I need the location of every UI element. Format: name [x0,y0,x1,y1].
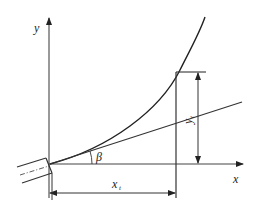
svg-text:x: x [111,177,118,191]
angle-arc [90,151,92,164]
nozzle-icon [17,158,52,183]
svg-text:t: t [188,115,196,118]
svg-text:y: y [181,118,195,125]
svg-text:t: t [119,184,122,192]
trajectory-curve [50,17,205,164]
trajectory-diagram: y x β x t y t [0,0,257,213]
x-axis-label: x [232,172,239,186]
yt-label: y t [181,115,196,125]
angle-beta-label: β [95,150,102,164]
tangent-line [50,102,242,164]
xt-label: x t [111,177,122,192]
y-axis-label: y [33,21,40,35]
